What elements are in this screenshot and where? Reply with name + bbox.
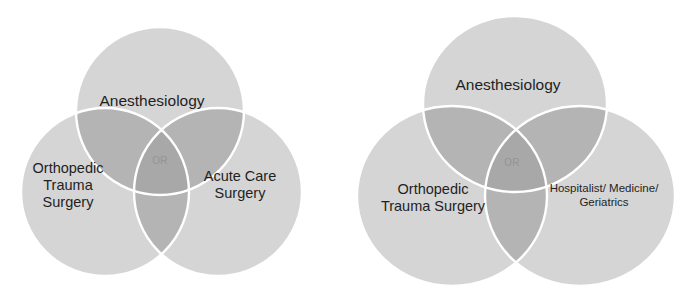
venn-left-graphic — [0, 0, 348, 294]
venn-diagram-left: Anesthesiology Orthopedic Trauma Surgery… — [0, 0, 348, 294]
venn-figure: Anesthesiology Orthopedic Trauma Surgery… — [0, 0, 696, 294]
venn-right-graphic — [348, 0, 696, 294]
venn-diagram-right: Anesthesiology Orthopedic Trauma Surgery… — [348, 0, 696, 294]
